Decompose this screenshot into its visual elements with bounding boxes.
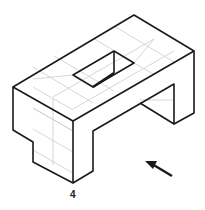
front-grid bbox=[33, 87, 174, 173]
direction-arrow-icon bbox=[145, 161, 172, 176]
block-outline bbox=[13, 15, 194, 183]
figure-label: 4 bbox=[70, 189, 76, 200]
isometric-figure bbox=[0, 0, 205, 210]
top-hole bbox=[73, 51, 134, 87]
